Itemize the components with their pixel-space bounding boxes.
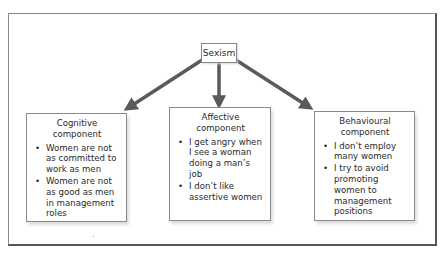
list-item: •I don’t like assertive women bbox=[176, 181, 265, 203]
list-item: •I try to avoid promoting women to manag… bbox=[321, 163, 409, 217]
root-node-sexism: Sexism bbox=[201, 43, 237, 63]
list-item: •I don’t employ many women bbox=[321, 141, 409, 163]
box-title: Cognitive component bbox=[33, 118, 121, 140]
box-title: Behavioural component bbox=[321, 116, 409, 138]
root-label: Sexism bbox=[203, 48, 235, 58]
arrow-to-cognitive bbox=[128, 60, 202, 108]
bullet-icon: • bbox=[323, 141, 328, 152]
behavioural-component-box: Behavioural component •I don’t employ ma… bbox=[314, 111, 415, 221]
bullet-icon: • bbox=[35, 143, 40, 154]
item-list: •I get angry when I see a woman doing a … bbox=[176, 137, 265, 203]
bullet-icon: • bbox=[178, 137, 183, 148]
stray-dot bbox=[93, 236, 94, 237]
item-list: •I don’t employ many women •I try to avo… bbox=[321, 141, 409, 218]
affective-component-box: Affective component •I get angry when I … bbox=[169, 107, 271, 221]
arrow-to-behavioural bbox=[236, 60, 309, 107]
bullet-icon: • bbox=[35, 176, 40, 187]
item-list: •Women are not as committed to work as m… bbox=[33, 143, 121, 220]
bullet-icon: • bbox=[178, 181, 183, 192]
list-item: •Women are not as good as men in managem… bbox=[33, 176, 121, 219]
cognitive-component-box: Cognitive component •Women are not as co… bbox=[26, 113, 127, 222]
box-title: Affective component bbox=[176, 112, 265, 134]
list-item: •Women are not as committed to work as m… bbox=[33, 143, 121, 175]
bullet-icon: • bbox=[323, 163, 328, 174]
list-item: •I get angry when I see a woman doing a … bbox=[176, 137, 265, 180]
